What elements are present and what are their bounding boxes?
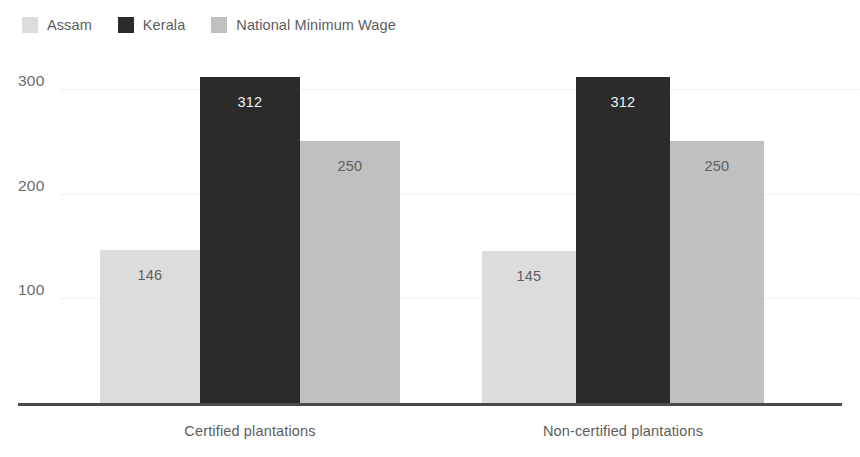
- category-label-certified-plantations: Certified plantations: [150, 423, 350, 439]
- bar-value-noncertified-kerala: 312: [576, 94, 670, 110]
- grouped-bar-chart: Assam Kerala National Minimum Wage 300 2…: [0, 0, 860, 457]
- bar-value-noncertified-national-minimum-wage: 250: [670, 158, 764, 174]
- bar-value-noncertified-assam: 145: [482, 268, 576, 284]
- bar-value-certified-kerala: 312: [200, 94, 300, 110]
- ytick-label-200: 200: [18, 177, 44, 195]
- plot-area: 300 200 100 146 312 250 145 312 250 Cert…: [0, 0, 860, 457]
- bar-value-certified-national-minimum-wage: 250: [300, 158, 400, 174]
- category-label-noncertified-plantations: Non-certified plantations: [523, 423, 723, 439]
- bar-noncertified-assam[interactable]: 145: [482, 251, 576, 403]
- ytick-label-300: 300: [18, 72, 44, 90]
- bar-certified-assam[interactable]: 146: [100, 250, 200, 403]
- bar-certified-national-minimum-wage[interactable]: 250: [300, 141, 400, 403]
- bar-noncertified-kerala[interactable]: 312: [576, 77, 670, 403]
- bar-value-certified-assam: 146: [100, 267, 200, 283]
- x-axis-line: [18, 403, 842, 406]
- gridline-300: [60, 89, 860, 91]
- bar-certified-kerala[interactable]: 312: [200, 77, 300, 403]
- ytick-label-100: 100: [18, 281, 44, 299]
- bar-noncertified-national-minimum-wage[interactable]: 250: [670, 141, 764, 403]
